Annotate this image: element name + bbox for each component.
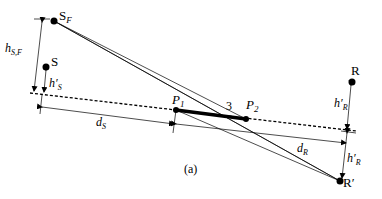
ds-dimension	[42, 107, 174, 124]
label-receiver: R	[351, 63, 360, 78]
label-d-s: dS	[96, 115, 106, 131]
source-far-point	[51, 18, 58, 25]
label-h-r-bottom: h′R	[347, 151, 361, 167]
p1-point	[173, 107, 179, 113]
label-h-s: h′S	[49, 76, 62, 92]
hsf-dimension	[34, 22, 42, 91]
label-p2: P2	[245, 97, 259, 114]
label-d-r: dR	[297, 141, 308, 157]
ds-tick-left	[40, 95, 42, 114]
ray-p1-to-rprime	[176, 110, 340, 181]
label-segment: 3	[226, 99, 232, 113]
hs-dimension	[44, 70, 46, 92]
hr-top-dimension	[347, 85, 351, 129]
label-p1: P1	[171, 92, 184, 109]
p2-point	[243, 116, 249, 122]
figure-caption: (a)	[184, 162, 197, 176]
label-source: S	[51, 54, 58, 69]
receiver-point	[349, 79, 356, 86]
label-receiver-image: R′	[343, 175, 355, 190]
label-h-sf: hS,F	[5, 41, 22, 57]
source-point	[43, 64, 50, 71]
ds-tick-right	[173, 110, 176, 133]
ray-sf-to-p2	[54, 21, 246, 119]
reflection-geometry-diagram: SF S P1 P2 3 R R′ hS,F h′S dS dR h′R h′R…	[0, 0, 382, 199]
label-source-far: SF	[59, 8, 72, 25]
label-h-r-top: h′R	[334, 96, 348, 112]
